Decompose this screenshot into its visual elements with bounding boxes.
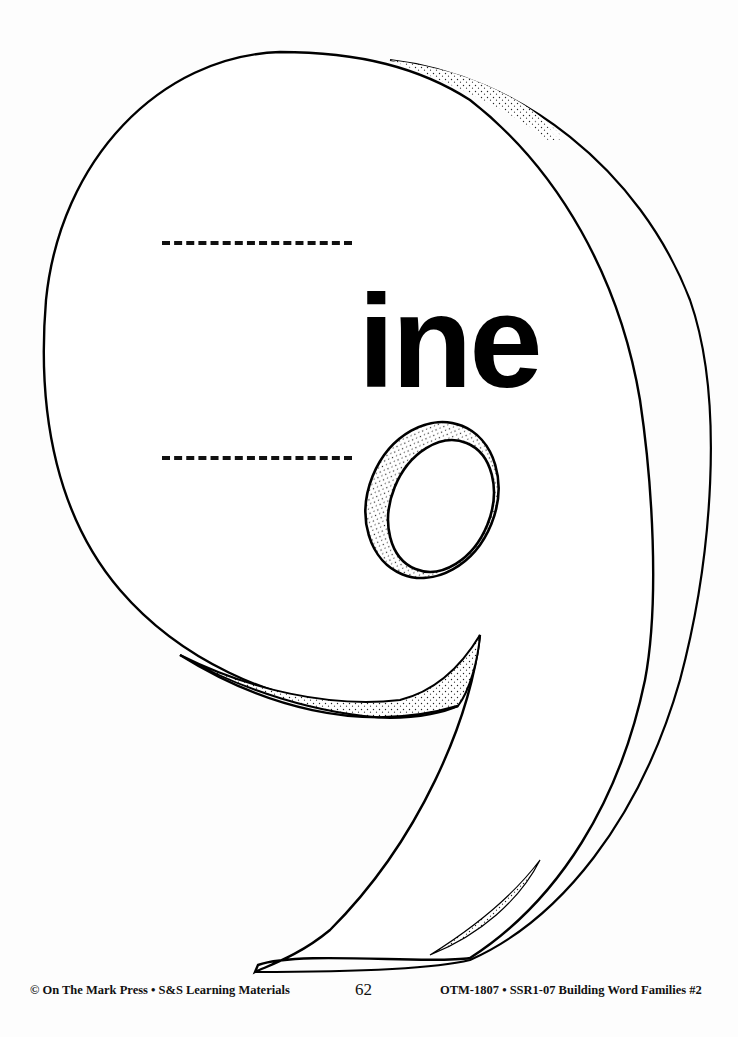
answer-line-bottom[interactable] <box>162 456 352 460</box>
footer-page-number: 62 <box>355 980 372 1000</box>
number-nine-outline-icon <box>0 0 738 1037</box>
footer-copyright: © On The Mark Press • S&S Learning Mater… <box>30 983 290 998</box>
word-ending-label: ine <box>358 276 540 408</box>
worksheet-page: ine © On The Mark Press • S&S Learning M… <box>0 0 738 1037</box>
answer-line-top[interactable] <box>162 241 352 245</box>
footer-product-code: OTM-1807 • SSR1-07 Building Word Familie… <box>440 983 702 998</box>
